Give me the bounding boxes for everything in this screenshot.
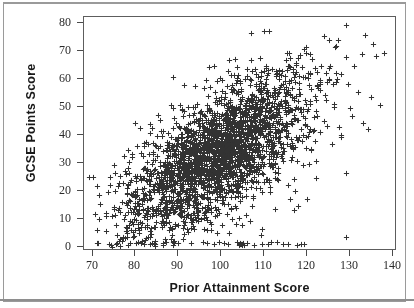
y-axis-title: GCSE Points Score bbox=[24, 64, 38, 183]
x-tick-label: 70 bbox=[77, 259, 107, 271]
x-tick-mark bbox=[220, 250, 221, 256]
x-tick-label: 120 bbox=[291, 259, 321, 271]
y-tick-mark bbox=[77, 190, 83, 191]
y-tick-mark bbox=[77, 106, 83, 107]
y-tick-label: 10 bbox=[45, 212, 71, 224]
figure: 01020304050607080 708090100110120130140 … bbox=[0, 0, 414, 308]
y-tick-label: 50 bbox=[45, 100, 71, 112]
x-tick-mark bbox=[92, 250, 93, 256]
x-tick-label: 140 bbox=[377, 259, 407, 271]
y-axis-title-container: GCSE Points Score bbox=[22, 6, 40, 240]
y-tick-label: 60 bbox=[45, 72, 71, 84]
scatter-points-layer bbox=[84, 17, 396, 250]
x-tick-mark bbox=[349, 250, 350, 256]
x-tick-mark bbox=[306, 250, 307, 256]
x-tick-mark bbox=[177, 250, 178, 256]
y-tick-label: 40 bbox=[45, 128, 71, 140]
y-tick-label: 30 bbox=[45, 156, 71, 168]
y-tick-mark bbox=[77, 218, 83, 219]
y-tick-label: 80 bbox=[45, 16, 71, 28]
page-border-bottom-rule bbox=[0, 299, 414, 301]
x-axis-title: Prior Attainment Score bbox=[83, 281, 396, 295]
y-tick-label: 70 bbox=[45, 44, 71, 56]
x-tick-label: 80 bbox=[119, 259, 149, 271]
x-tick-label: 100 bbox=[205, 259, 235, 271]
y-tick-label: 0 bbox=[45, 240, 71, 252]
x-tick-label: 90 bbox=[162, 259, 192, 271]
y-tick-label: 20 bbox=[45, 184, 71, 196]
y-tick-mark bbox=[77, 246, 83, 247]
plot-area bbox=[83, 16, 396, 250]
y-tick-mark bbox=[77, 78, 83, 79]
y-tick-mark bbox=[77, 134, 83, 135]
x-tick-mark bbox=[134, 250, 135, 256]
y-tick-mark bbox=[77, 162, 83, 163]
y-tick-mark bbox=[77, 50, 83, 51]
x-tick-mark bbox=[263, 250, 264, 256]
x-tick-label: 130 bbox=[334, 259, 364, 271]
x-tick-label: 110 bbox=[248, 259, 278, 271]
y-tick-mark bbox=[77, 22, 83, 23]
x-tick-mark bbox=[392, 250, 393, 256]
